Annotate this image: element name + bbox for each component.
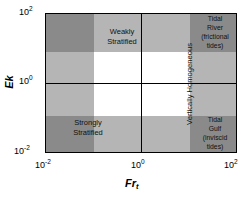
ytick-label-1e0: 100 xyxy=(19,76,33,86)
cell-mid-ek-mid-fr xyxy=(94,52,190,116)
x-axis-title-subscript: t xyxy=(136,182,139,191)
xtick-label-1e2: 102 xyxy=(224,160,238,170)
label-tidal-gulf: Tidal Gulf (inviscid tides) xyxy=(192,115,237,151)
cell-mid-ek-low-fr xyxy=(46,52,94,116)
label-vertically-homogeneous: Vertically Homogeneous xyxy=(186,15,194,153)
ytick-label-1em2: 10-2 xyxy=(14,146,30,156)
ytick-label-1e2: 102 xyxy=(19,7,33,17)
xtick-label-1em2: 10-2 xyxy=(35,160,51,170)
chart-figure: Weakly Stratified Strongly Stratified Ti… xyxy=(0,0,252,200)
gridline-ek-equals-one xyxy=(46,83,236,84)
label-strongly-stratified: Strongly Stratified xyxy=(52,118,124,137)
x-axis-title-base: Fr xyxy=(125,177,136,189)
y-axis-title: Ek xyxy=(3,67,15,97)
label-tidal-river: Tidal River (frictional tides) xyxy=(192,14,237,50)
plot-area: Weakly Stratified Strongly Stratified Ti… xyxy=(45,13,237,153)
label-weakly-stratified: Weakly Stratified xyxy=(86,27,158,46)
cell-mid-ek-high-fr xyxy=(190,52,237,116)
xtick-label-1e0: 100 xyxy=(131,160,145,170)
x-axis-title: Frt xyxy=(125,177,139,189)
